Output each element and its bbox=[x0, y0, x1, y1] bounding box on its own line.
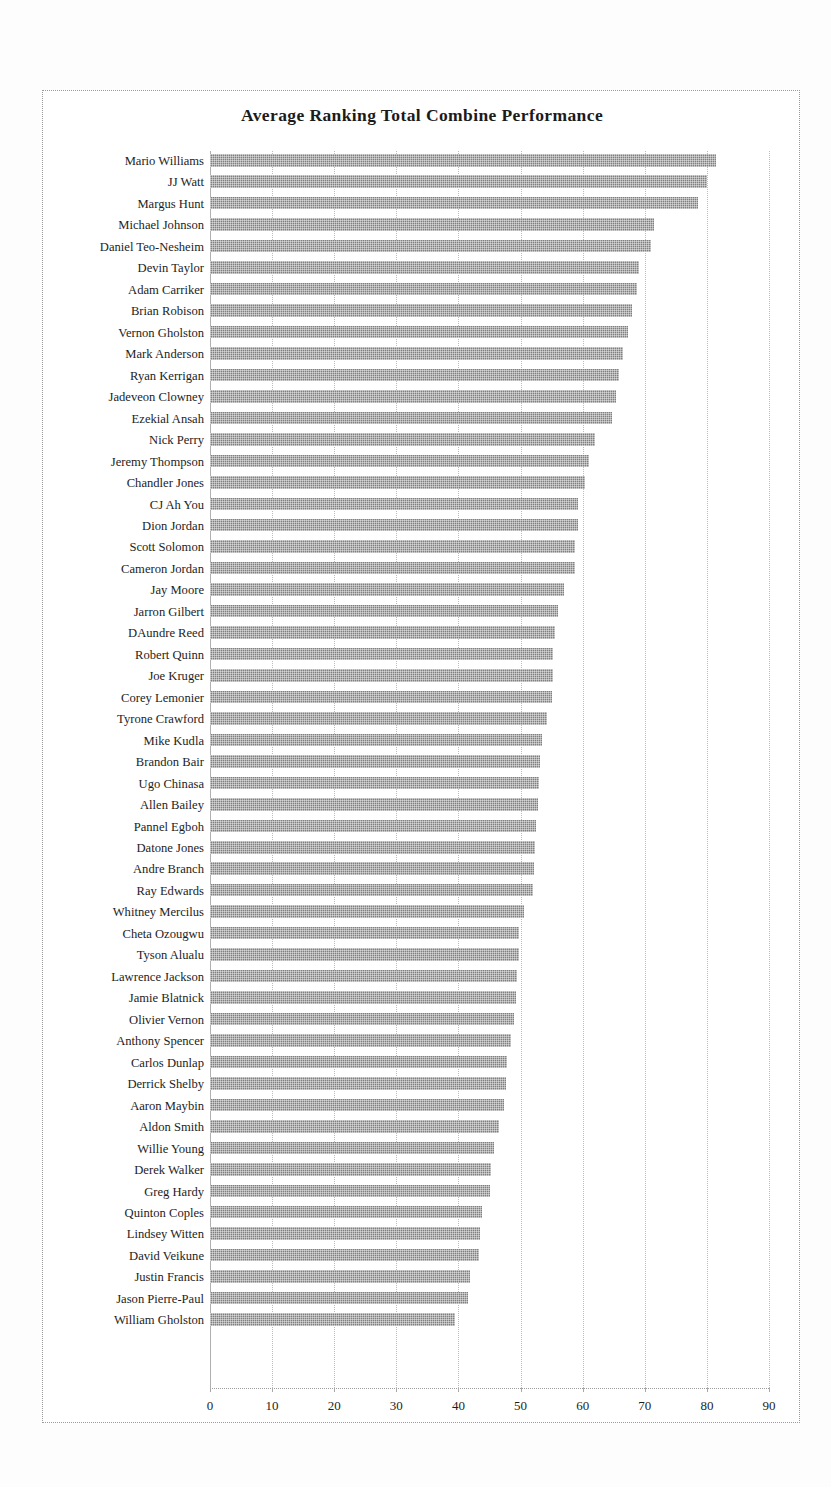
bar-category-label: Scott Solomon bbox=[44, 537, 204, 558]
bar-category-label: Nick Perry bbox=[44, 430, 204, 451]
bar-row: William Gholston bbox=[210, 1310, 769, 1331]
x-tick-label: 30 bbox=[376, 1398, 416, 1414]
bar-row: Ryan Kerrigan bbox=[210, 366, 769, 387]
bar-row: Jason Pierre-Paul bbox=[210, 1289, 769, 1310]
bar-row: Dion Jordan bbox=[210, 516, 769, 537]
x-tick-mark-50 bbox=[521, 1388, 522, 1392]
bar-category-label: DAundre Reed bbox=[44, 623, 204, 644]
bar bbox=[210, 476, 585, 489]
bar bbox=[210, 648, 553, 661]
bar-row: Tyrone Crawford bbox=[210, 709, 769, 730]
bar-category-label: Mario Williams bbox=[44, 151, 204, 172]
bar-category-label: Jeremy Thompson bbox=[44, 452, 204, 473]
bar-row: DAundre Reed bbox=[210, 623, 769, 644]
bar-category-label: Pannel Egboh bbox=[44, 817, 204, 838]
bar-row: Olivier Vernon bbox=[210, 1010, 769, 1031]
bar bbox=[210, 562, 575, 575]
bar bbox=[210, 583, 564, 596]
gridline-90 bbox=[769, 151, 770, 1388]
bar-row: Nick Perry bbox=[210, 430, 769, 451]
bar-category-label: JJ Watt bbox=[44, 172, 204, 193]
bar bbox=[210, 991, 516, 1004]
bar bbox=[210, 605, 558, 618]
bar-category-label: Lawrence Jackson bbox=[44, 967, 204, 988]
bar-category-label: Cameron Jordan bbox=[44, 559, 204, 580]
bar-row: Brandon Bair bbox=[210, 752, 769, 773]
bar-row: Jeremy Thompson bbox=[210, 452, 769, 473]
bar bbox=[210, 755, 540, 768]
bar-category-label: Ezekial Ansah bbox=[44, 409, 204, 430]
bar bbox=[210, 1249, 479, 1262]
x-axis-line bbox=[210, 1388, 769, 1389]
bar-row: Corey Lemonier bbox=[210, 688, 769, 709]
bar-row: Derek Walker bbox=[210, 1160, 769, 1181]
bar bbox=[210, 1077, 506, 1090]
x-tick-label: 70 bbox=[625, 1398, 665, 1414]
bar bbox=[210, 669, 553, 682]
bar-category-label: Olivier Vernon bbox=[44, 1010, 204, 1031]
bar-row: Datone Jones bbox=[210, 838, 769, 859]
bar bbox=[210, 455, 589, 468]
bar bbox=[210, 948, 519, 961]
bar-category-label: Vernon Gholston bbox=[44, 323, 204, 344]
bar bbox=[210, 970, 517, 983]
bar-category-label: CJ Ah You bbox=[44, 495, 204, 516]
bar bbox=[210, 369, 619, 382]
bar-row: Carlos Dunlap bbox=[210, 1053, 769, 1074]
bar-category-label: Aaron Maybin bbox=[44, 1096, 204, 1117]
bar-category-label: Brandon Bair bbox=[44, 752, 204, 773]
bar-row: Brian Robison bbox=[210, 301, 769, 322]
bar-row: Willie Young bbox=[210, 1139, 769, 1160]
bar-category-label: Carlos Dunlap bbox=[44, 1053, 204, 1074]
x-tick-label: 80 bbox=[687, 1398, 727, 1414]
x-tick-mark-90 bbox=[769, 1388, 770, 1392]
bar-category-label: William Gholston bbox=[44, 1310, 204, 1331]
bar-category-label: Greg Hardy bbox=[44, 1182, 204, 1203]
bar bbox=[210, 240, 651, 253]
x-tick-label: 0 bbox=[190, 1398, 230, 1414]
bar-category-label: Jason Pierre-Paul bbox=[44, 1289, 204, 1310]
bar-row: David Veikune bbox=[210, 1246, 769, 1267]
bar-category-label: Allen Bailey bbox=[44, 795, 204, 816]
bar-row: Mike Kudla bbox=[210, 731, 769, 752]
bar bbox=[210, 1163, 491, 1176]
bar bbox=[210, 1013, 514, 1026]
bar bbox=[210, 1034, 511, 1047]
bar-row: Mario Williams bbox=[210, 151, 769, 172]
bar-row: Greg Hardy bbox=[210, 1182, 769, 1203]
x-tick-mark-80 bbox=[707, 1388, 708, 1392]
bar bbox=[210, 390, 616, 403]
bar-category-label: Robert Quinn bbox=[44, 645, 204, 666]
bar-category-label: Daniel Teo-Nesheim bbox=[44, 237, 204, 258]
x-tick-label: 10 bbox=[252, 1398, 292, 1414]
bar-category-label: Anthony Spencer bbox=[44, 1031, 204, 1052]
bar bbox=[210, 218, 654, 231]
bar bbox=[210, 905, 524, 918]
bar-row: Jadeveon Clowney bbox=[210, 387, 769, 408]
x-tick-label: 40 bbox=[438, 1398, 478, 1414]
bar-row: CJ Ah You bbox=[210, 495, 769, 516]
bar-category-label: Corey Lemonier bbox=[44, 688, 204, 709]
bar-category-label: Mike Kudla bbox=[44, 731, 204, 752]
bar-row: Lawrence Jackson bbox=[210, 967, 769, 988]
x-tick-mark-10 bbox=[272, 1388, 273, 1392]
bar-category-label: David Veikune bbox=[44, 1246, 204, 1267]
bar bbox=[210, 1292, 468, 1305]
bar bbox=[210, 347, 623, 360]
bar bbox=[210, 1099, 504, 1112]
bar-row: Andre Branch bbox=[210, 859, 769, 880]
bar-category-label: Adam Carriker bbox=[44, 280, 204, 301]
bar-category-label: Cheta Ozougwu bbox=[44, 924, 204, 945]
bar-category-label: Aldon Smith bbox=[44, 1117, 204, 1138]
bar-category-label: Whitney Mercilus bbox=[44, 902, 204, 923]
bar bbox=[210, 862, 534, 875]
bar-row: Daniel Teo-Nesheim bbox=[210, 237, 769, 258]
bar-category-label: Michael Johnson bbox=[44, 215, 204, 236]
bar-category-label: Devin Taylor bbox=[44, 258, 204, 279]
bar-category-label: Ray Edwards bbox=[44, 881, 204, 902]
bar bbox=[210, 1120, 499, 1133]
bar-row: Joe Kruger bbox=[210, 666, 769, 687]
x-tick-label: 20 bbox=[314, 1398, 354, 1414]
bar bbox=[210, 412, 612, 425]
bar-row: Devin Taylor bbox=[210, 258, 769, 279]
